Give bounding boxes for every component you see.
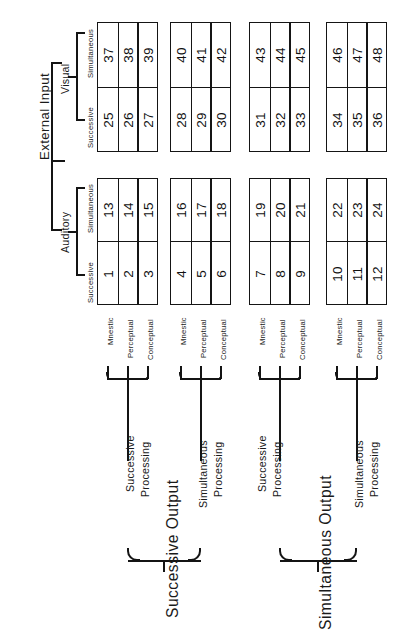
row-divider xyxy=(250,87,309,88)
cell: 37 xyxy=(101,47,116,62)
cell: 28 xyxy=(174,112,189,127)
output-group-label-simultaneous: Simultaneous Output xyxy=(318,475,334,630)
auditory-mode-label-successive: Successive xyxy=(87,262,95,303)
processing-label-line2-block-4: Processing xyxy=(369,442,380,497)
cell: 11 xyxy=(350,267,365,281)
cell: 3 xyxy=(141,270,156,278)
cell: 8 xyxy=(273,270,288,278)
cell: 47 xyxy=(350,47,365,62)
cell: 45 xyxy=(293,47,308,62)
processing-label-line1-block-1: Successive xyxy=(125,435,136,492)
cell: 23 xyxy=(350,202,365,217)
level-label-perceptual: Perceptual xyxy=(279,319,287,358)
processing-label-line2-block-1: Processing xyxy=(140,442,151,497)
processing-label-line1-block-4: Simultaneous xyxy=(354,440,365,508)
processing-label-line2-block-2: Processing xyxy=(213,442,224,497)
table-block-2-auditory: 16 17 18 4 5 6 xyxy=(170,178,231,305)
cell: 34 xyxy=(330,112,345,127)
cell: 26 xyxy=(121,112,136,127)
level-label-mnestic: Mnestic xyxy=(336,317,344,345)
cell: 9 xyxy=(293,270,308,278)
output-stem-simultaneous xyxy=(317,560,319,572)
cell: 46 xyxy=(330,47,345,62)
cell: 41 xyxy=(194,47,209,62)
level-label-conceptual: Conceptual xyxy=(299,319,307,360)
root-label-external-input: External Input xyxy=(38,73,51,160)
auditory-bracket-arm-simultaneous xyxy=(76,187,85,189)
cell: 14 xyxy=(121,202,136,217)
table-block-4-visual: 46 47 48 34 35 36 xyxy=(326,22,387,152)
output-group-label-successive: Successive Output xyxy=(165,479,181,618)
level-label-perceptual: Perceptual xyxy=(127,319,135,358)
visual-mode-label-successive: Successive xyxy=(87,107,95,148)
cell: 27 xyxy=(141,112,156,127)
table-block-1-auditory: 13 14 15 1 2 3 xyxy=(97,178,158,305)
level-label-mnestic: Mnestic xyxy=(259,317,267,345)
cell: 10 xyxy=(330,266,345,281)
cell: 4 xyxy=(174,270,189,278)
row-divider xyxy=(98,87,157,88)
cell: 30 xyxy=(214,112,229,127)
cell: 40 xyxy=(174,47,189,62)
level-label-perceptual: Perceptual xyxy=(200,319,208,358)
table-block-1-visual: 37 38 39 25 26 27 xyxy=(97,22,158,152)
cell: 17 xyxy=(194,202,209,217)
visual-bracket-arm-simultaneous xyxy=(76,32,85,34)
cell: 25 xyxy=(101,112,116,127)
cell: 5 xyxy=(194,270,209,278)
cell: 42 xyxy=(214,47,229,62)
visual-mode-label-simultaneous: Simultaneous xyxy=(87,29,95,78)
cell: 39 xyxy=(141,47,156,62)
modality-label-visual: Visual xyxy=(60,64,71,94)
visual-bracket-stub xyxy=(68,76,77,78)
level-label-mnestic: Mnestic xyxy=(180,317,188,345)
table-block-3-visual: 43 44 45 31 32 33 xyxy=(249,22,310,152)
output-stem-successive xyxy=(163,560,165,572)
processing-label-line2-block-3: Processing xyxy=(272,442,283,497)
processing-label-line1-block-3: Successive xyxy=(257,435,268,492)
root-spine xyxy=(51,62,53,230)
cell: 24 xyxy=(370,202,385,217)
table-block-2-visual: 40 41 42 28 29 30 xyxy=(170,22,231,152)
cell: 33 xyxy=(293,112,308,127)
cell: 35 xyxy=(350,112,365,127)
cell: 6 xyxy=(214,270,229,278)
table-block-3-auditory: 19 20 21 7 8 9 xyxy=(249,178,310,305)
cell: 22 xyxy=(330,202,345,217)
row-divider xyxy=(171,241,230,242)
level-label-conceptual: Conceptual xyxy=(147,319,155,360)
level-label-perceptual: Perceptual xyxy=(356,319,364,358)
level-label-conceptual: Conceptual xyxy=(220,319,228,360)
cell: 31 xyxy=(253,112,268,127)
row-divider xyxy=(171,87,230,88)
cell: 12 xyxy=(370,266,385,281)
cell: 29 xyxy=(194,112,209,127)
processing-label-line1-block-2: Simultaneous xyxy=(198,440,209,508)
cell: 48 xyxy=(370,47,385,62)
cell: 7 xyxy=(253,270,268,278)
cell: 19 xyxy=(253,202,268,217)
visual-bracket-arm-successive xyxy=(76,119,85,121)
cell: 36 xyxy=(370,112,385,127)
auditory-bracket-arm-successive xyxy=(76,274,85,276)
level-label-conceptual: Conceptual xyxy=(376,319,384,360)
cell: 2 xyxy=(121,270,136,278)
figure-canvas: External Input Visual Simultaneous Succe… xyxy=(0,0,402,643)
cell: 18 xyxy=(214,202,229,217)
cell: 13 xyxy=(101,202,116,217)
cell: 16 xyxy=(174,202,189,217)
cell: 43 xyxy=(253,47,268,62)
cell: 20 xyxy=(273,202,288,217)
auditory-bracket-stub xyxy=(68,231,77,233)
cell: 32 xyxy=(273,112,288,127)
cell: 38 xyxy=(121,47,136,62)
cell: 21 xyxy=(293,202,308,217)
cell: 44 xyxy=(273,47,288,62)
level-label-mnestic: Mnestic xyxy=(107,317,115,345)
cell: 1 xyxy=(101,270,116,278)
row-divider xyxy=(327,87,386,88)
auditory-mode-label-simultaneous: Simultaneous xyxy=(87,184,95,233)
row-divider xyxy=(98,241,157,242)
root-stub xyxy=(51,160,65,162)
table-block-4-auditory: 22 23 24 10 11 12 xyxy=(326,178,387,305)
